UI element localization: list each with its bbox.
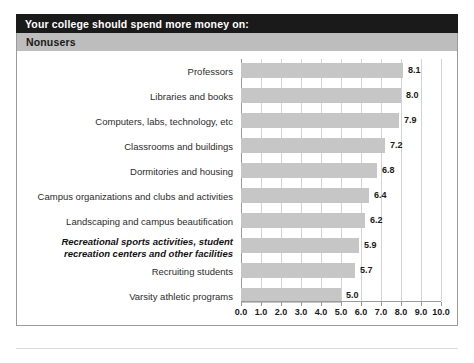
x-axis-tick-labels: 0.01.02.03.04.05.06.07.08.09.010.0 (241, 307, 441, 319)
chart-title: Your college should spend more money on: (25, 18, 249, 30)
bar-value-label: 5.7 (360, 263, 373, 278)
x-axis-tick (281, 302, 282, 306)
chart-figure: Your college should spend more money on:… (16, 14, 458, 326)
plot-area: 8.18.07.97.26.86.46.25.95.75.0 0.01.02.0… (241, 59, 441, 309)
bar (241, 138, 385, 153)
bar-row: 7.9 (241, 109, 441, 134)
category-label-column: ProfessorsLibraries and booksComputers, … (23, 59, 237, 301)
category-label: Professors (188, 59, 233, 84)
category-label-line: recreation centers and other facilities (64, 248, 233, 260)
bar (241, 163, 377, 178)
bar-row: 6.4 (241, 184, 441, 209)
category-label: Dormitories and housing (130, 159, 233, 184)
x-axis-tick (261, 302, 262, 306)
chart-subtitle: Nonusers (26, 36, 76, 48)
x-axis-tick-label: 6.0 (355, 307, 368, 317)
x-axis-tick-label: 2.0 (275, 307, 288, 317)
bar (241, 213, 365, 228)
x-axis-tick-label: 8.0 (395, 307, 408, 317)
bar-value-label: 8.0 (406, 88, 419, 103)
bar (241, 188, 369, 203)
x-axis-tick-label: 7.0 (375, 307, 388, 317)
chart-title-bar: Your college should spend more money on: (16, 14, 458, 33)
bar-value-label: 5.9 (364, 238, 377, 253)
footer-rule (16, 348, 458, 349)
bar (241, 263, 355, 278)
gridline (441, 59, 442, 301)
bar-row: 8.0 (241, 84, 441, 109)
bar (241, 238, 359, 253)
x-axis-tick-label: 0.0 (235, 307, 248, 317)
x-axis-tick (241, 302, 242, 306)
x-axis-tick (381, 302, 382, 306)
bar-row: 5.7 (241, 259, 441, 284)
bar-series: 8.18.07.97.26.86.46.25.95.75.0 (241, 59, 441, 301)
bar-value-label: 6.2 (370, 213, 383, 228)
x-axis-tick-label: 4.0 (315, 307, 328, 317)
x-axis-tick-label: 5.0 (335, 307, 348, 317)
category-label: Landscaping and campus beautification (66, 209, 233, 234)
bar-row: 6.2 (241, 209, 441, 234)
x-axis-ticks (241, 302, 441, 306)
chart-panel: ProfessorsLibraries and booksComputers, … (16, 51, 458, 326)
x-axis-tick-label: 3.0 (295, 307, 308, 317)
bar-value-label: 8.1 (408, 63, 421, 78)
bar-value-label: 6.8 (382, 163, 395, 178)
x-axis-tick (301, 302, 302, 306)
x-axis-tick-label: 9.0 (415, 307, 428, 317)
bar (241, 88, 401, 103)
bar-row: 7.2 (241, 134, 441, 159)
x-axis-tick (401, 302, 402, 306)
bar-value-label: 7.9 (404, 113, 417, 128)
bar (241, 63, 403, 78)
chart-subtitle-bar: Nonusers (16, 33, 458, 51)
x-axis-tick-label: 10.0 (432, 307, 450, 317)
bar-value-label: 6.4 (374, 188, 387, 203)
category-label: Classrooms and buildings (124, 134, 233, 159)
category-label: Libraries and books (150, 84, 233, 109)
category-label: Varsity athletic programs (129, 284, 233, 309)
x-axis-tick (421, 302, 422, 306)
x-axis-tick (341, 302, 342, 306)
bar-value-label: 7.2 (390, 138, 403, 153)
x-axis-tick (361, 302, 362, 306)
bar-row: 6.8 (241, 159, 441, 184)
category-label: Recreational sports activities, studentr… (43, 234, 233, 259)
bar-row: 5.9 (241, 234, 441, 259)
category-label: Computers, labs, technology, etc (95, 109, 233, 134)
category-label-line: Recreational sports activities, student (61, 236, 233, 248)
category-label: Campus organizations and clubs and activ… (38, 184, 233, 209)
x-axis-tick (321, 302, 322, 306)
x-axis-tick (441, 302, 442, 306)
bar-row: 8.1 (241, 59, 441, 84)
bar (241, 113, 399, 128)
category-label: Recruiting students (152, 259, 233, 284)
x-axis-tick-label: 1.0 (255, 307, 268, 317)
